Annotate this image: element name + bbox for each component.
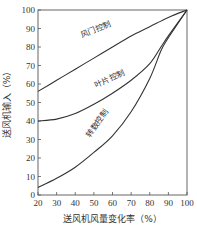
curves [38,10,187,188]
chart: 0102030405060708090100 20304050607080901… [0,0,197,230]
x-axis-title: 送风机风量变化率（%） [63,213,162,224]
plot-border [38,10,187,195]
x-axis: 2030405060708090100 [34,192,195,208]
y-tick-label: 20 [26,153,36,163]
speed-control-label: 转数控制 [83,107,110,139]
y-tick-label: 50 [26,98,36,108]
damper-control-label: 风门控制 [79,18,112,40]
x-tick-label: 50 [89,198,99,208]
x-tick-label: 70 [127,198,137,208]
y-tick-label: 100 [22,5,36,15]
y-tick-label: 60 [26,79,36,89]
speed-control-curve [38,10,187,188]
y-tick-label: 90 [26,24,36,34]
x-tick-label: 60 [108,198,118,208]
x-tick-label: 30 [52,198,62,208]
x-tick-label: 90 [164,198,174,208]
y-tick-label: 10 [26,172,36,182]
x-tick-label: 40 [71,198,81,208]
vane-control-label: 叶片控制 [93,67,126,90]
y-tick-label: 30 [26,135,36,145]
plot-frame [38,10,187,195]
y-tick-label: 80 [26,42,36,52]
y-axis-title: 送风机输入（%） [1,67,12,139]
x-tick-label: 100 [180,198,194,208]
y-tick-label: 70 [26,61,36,71]
x-tick-label: 20 [34,198,44,208]
curve-labels: 风门控制叶片控制转数控制 [79,18,126,139]
vane-control-curve [38,10,187,121]
y-tick-label: 40 [26,116,36,126]
x-tick-label: 80 [145,198,155,208]
